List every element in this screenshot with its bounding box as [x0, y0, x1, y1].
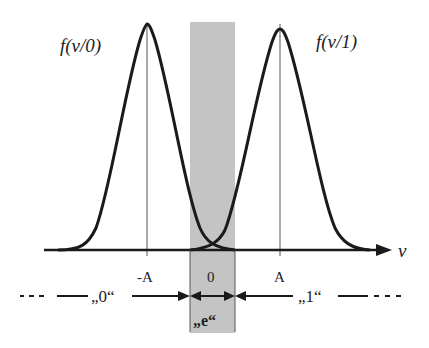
- arrow-right-icon: [178, 291, 190, 301]
- label-f-v-1: f(ν/1): [316, 31, 357, 53]
- diagram-canvas: f(ν/0) f(ν/1) ν -A 0 A „0“ „e“ „1“: [0, 0, 429, 348]
- tick-minus-a: -A: [137, 269, 153, 285]
- tick-zero: 0: [207, 269, 215, 285]
- region-label-e: „e“: [193, 312, 216, 329]
- axis-arrow-icon: [376, 244, 392, 256]
- label-f-v-0: f(ν/0): [60, 35, 101, 57]
- erasure-region-band: [190, 22, 235, 333]
- region-label-1: „1“: [298, 287, 322, 306]
- axis-label-v: ν: [398, 240, 407, 261]
- region-label-0: „0“: [91, 287, 115, 306]
- tick-a: A: [274, 269, 285, 285]
